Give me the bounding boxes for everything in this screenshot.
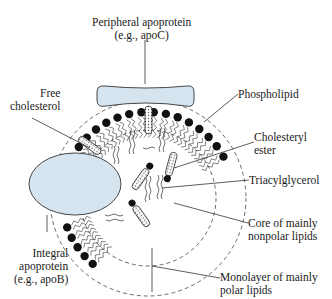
label-phospholipid: Phospholipid	[238, 88, 299, 101]
label-line: Peripheral apoprotein	[92, 16, 191, 29]
label-line: Free	[10, 87, 60, 100]
label-integral-apoprotein: Integral apoprotein (e.g., apoB)	[14, 247, 68, 286]
cholesteryl-ester-molecule	[131, 161, 155, 191]
label-line: Core of mainly	[248, 217, 318, 230]
label-line: Monolayer of mainly	[220, 271, 318, 284]
label-line: apoprotein	[14, 260, 68, 273]
label-line: Integral	[14, 247, 68, 260]
label-line: Cholesteryl	[254, 131, 307, 144]
label-line: polar lipids	[220, 284, 318, 297]
label-core: Core of mainly nonpolar lipids	[248, 217, 318, 243]
label-line: (e.g., apoB)	[14, 273, 68, 286]
cholesteryl-ester-molecule	[127, 198, 151, 228]
label-line: nonpolar lipids	[248, 230, 318, 243]
peripheral-apoprotein	[97, 86, 194, 107]
label-line: cholesterol	[10, 100, 60, 113]
label-cholesteryl-ester: Cholesteryl ester	[254, 131, 307, 157]
label-triacylglycerol: Triacylglycerol	[249, 174, 319, 187]
label-free-cholesterol: Free cholesterol	[10, 87, 60, 113]
label-monolayer: Monolayer of mainly polar lipids	[220, 271, 318, 297]
label-line: Phospholipid	[238, 88, 299, 101]
label-line: (e.g., apoC)	[92, 29, 191, 42]
label-peripheral-apoprotein: Peripheral apoprotein (e.g., apoC)	[92, 16, 191, 42]
label-line: ester	[254, 144, 307, 157]
free-cholesterol-molecule	[145, 106, 152, 134]
label-line: Triacylglycerol	[249, 174, 319, 187]
integral-apoprotein	[29, 153, 121, 215]
